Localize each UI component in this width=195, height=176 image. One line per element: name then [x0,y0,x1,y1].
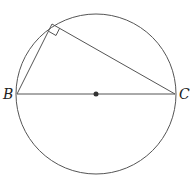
segment-ac [52,24,175,94]
right-angle-marker [48,28,59,35]
center-dot [94,92,99,97]
geometry-diagram: B C [0,0,195,176]
segment-ba [17,24,52,94]
label-c: C [179,86,190,102]
diagram-svg: B C [0,0,195,176]
label-b: B [2,86,13,102]
